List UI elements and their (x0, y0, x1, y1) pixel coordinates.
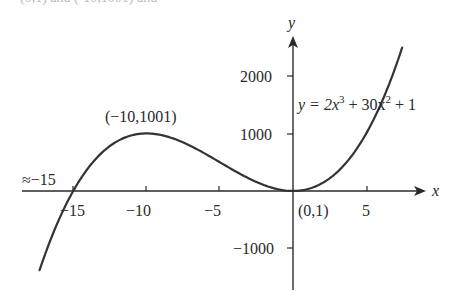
y-axis-label: y (286, 14, 296, 32)
x-ticks (73, 186, 367, 191)
root-label: ≈−15 (22, 171, 56, 188)
x-tick-label: −10 (126, 202, 151, 219)
equation-label: y = 2x3 + 30x2 + 1 (296, 93, 416, 114)
y-ticks (287, 76, 293, 248)
cubic-curve (40, 48, 403, 270)
min-point-label: (0,1) (298, 202, 329, 220)
cubic-function-graph: y x −15 −10 −5 5 2000 1000 −1000 (−10,10… (0, 0, 461, 292)
x-axis-label: x (431, 182, 439, 199)
y-tick-label: 2000 (240, 68, 272, 85)
x-tick-label: −5 (204, 202, 221, 219)
x-tick-label: 5 (362, 202, 370, 219)
y-tick-label: −1000 (233, 240, 274, 257)
y-tick-label: 1000 (240, 126, 272, 143)
max-point-label: (−10,1001) (105, 108, 177, 126)
x-tick-label: −15 (60, 202, 85, 219)
